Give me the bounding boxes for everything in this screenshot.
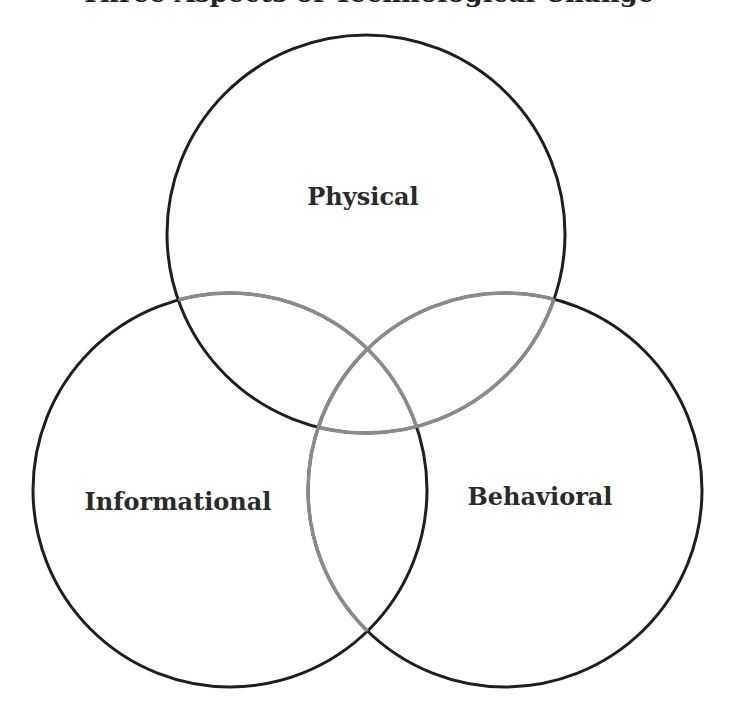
- circle-physical: [167, 35, 565, 433]
- label-informational: Informational: [85, 487, 272, 516]
- label-behavioral: Behavioral: [468, 482, 613, 511]
- venn-diagram: Physical Informational Behavioral: [0, 0, 735, 722]
- arc-physical-in-behavioral: [167, 35, 565, 433]
- label-physical: Physical: [307, 182, 418, 211]
